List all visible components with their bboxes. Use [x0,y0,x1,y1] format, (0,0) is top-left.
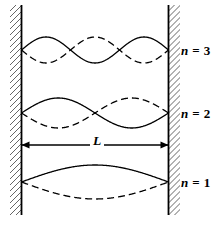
left-hatch-stroke [6,66,28,88]
standing-wave-curves [22,37,169,199]
left-hatch-stroke [6,138,28,160]
left-hatch-stroke [6,156,28,178]
wave-mode-n3 [22,37,169,63]
mode-label-n1: n = 1 [181,175,211,191]
mode-label-n3: n = 3 [181,43,211,59]
left-hatch-stroke [6,168,28,190]
left-wall-hatching [6,0,28,225]
left-hatch-stroke [6,0,28,15]
wave-mode-n2 [22,98,169,128]
left-hatch-stroke [6,60,28,82]
left-hatch-stroke [6,96,28,118]
mode-symbol-n2: n [181,106,189,121]
left-hatch-stroke [6,78,28,100]
left-hatch-stroke [6,0,28,9]
mode-value-n1: 1 [204,175,211,190]
mode-eq-sign-n1: = [192,175,200,190]
mode-symbol-n1: n [181,175,189,190]
left-hatch-stroke [6,198,28,220]
left-hatch-stroke [6,204,28,226]
left-hatch-stroke [6,120,28,142]
left-hatch-stroke [6,132,28,154]
left-hatch-stroke [6,6,28,28]
left-hatch-stroke [6,216,28,226]
mode-label-n2: n = 2 [181,106,211,122]
left-hatch-stroke [6,186,28,208]
mode-symbol-n3: n [181,43,189,58]
mode-value-n2: 2 [204,106,211,121]
left-hatch-stroke [6,0,28,3]
left-hatch-stroke [6,36,28,58]
left-hatch-stroke [6,144,28,166]
left-hatch-stroke [6,192,28,214]
left-hatch-stroke [6,48,28,70]
mode-eq-sign-n3: = [192,43,200,58]
left-hatch-stroke [6,102,28,124]
dimension-arrowhead-right [161,141,169,148]
standing-wave-figure: n = 3 n = 2 n = 1 L [0,0,223,225]
left-hatch-stroke [6,210,28,226]
wave-dashed-n2 [22,98,169,128]
left-hatch-stroke [6,12,28,34]
left-hatch-stroke [6,114,28,136]
wave-mode-n1 [22,165,169,199]
length-label-L: L [90,134,104,148]
wave-dashed-n1 [22,182,169,199]
left-hatch-stroke [6,24,28,46]
right-hatch-stroke [165,0,187,3]
mode-value-n3: 3 [204,43,211,58]
left-hatch-stroke [6,0,28,21]
left-hatch-stroke [6,54,28,76]
wave-solid-n1 [22,165,169,182]
left-hatch-stroke [6,150,28,172]
left-hatch-stroke [6,222,28,226]
left-wall [6,0,28,225]
mode-eq-sign-n2: = [192,106,200,121]
left-hatch-stroke [6,90,28,112]
right-hatch-stroke [165,222,187,226]
left-hatch-stroke [6,162,28,184]
dimension-arrowhead-left [22,141,30,148]
right-hatch-stroke [165,216,187,226]
left-hatch-stroke [6,18,28,40]
wave-solid-n3 [22,37,169,63]
left-hatch-stroke [6,72,28,94]
left-hatch-stroke [6,174,28,196]
left-hatch-stroke [6,84,28,106]
wave-dashed-n3 [22,37,169,63]
